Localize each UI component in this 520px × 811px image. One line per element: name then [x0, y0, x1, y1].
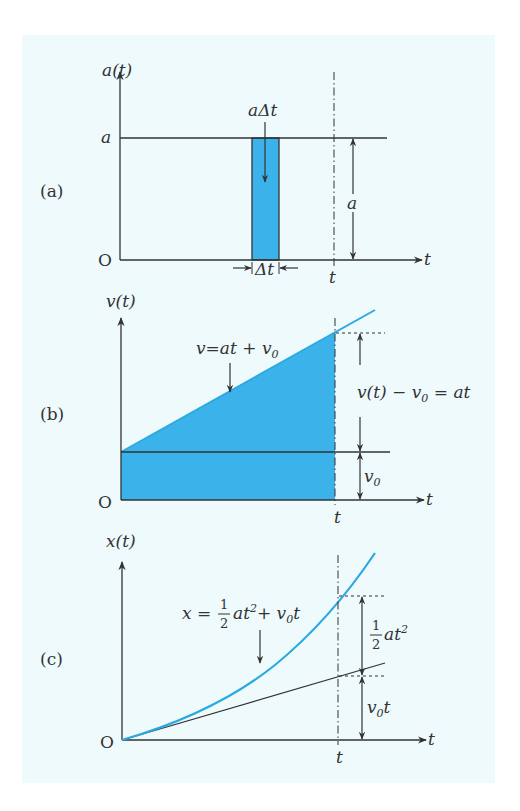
- curve-equation: x = 1 2 at2+ v0t: [182, 597, 300, 631]
- x-axis-label: t: [424, 249, 431, 269]
- increase-label: v(t) − v0 = at: [357, 382, 471, 405]
- level-label: a: [101, 127, 111, 147]
- svg-text:1: 1: [372, 618, 380, 633]
- svg-text:at2: at2: [384, 623, 408, 644]
- initial-velocity-label: v0: [364, 466, 381, 489]
- origin-label: O: [98, 492, 112, 512]
- x-axis-label: t: [428, 729, 435, 749]
- quadratic-term-label: 1 2 at2: [370, 618, 408, 652]
- linear-term-line: [122, 663, 385, 740]
- svg-text:2: 2: [372, 637, 380, 652]
- x-axis-label: t: [426, 489, 433, 509]
- kinematics-figure: (a) a(t) t O a aΔt Δt a t (b): [0, 0, 520, 811]
- panel-a: (a) a(t) t O a aΔt Δt a t: [40, 60, 431, 287]
- y-axis-label: x(t): [106, 531, 136, 551]
- panel-label-b: (b): [40, 404, 64, 424]
- svg-text:1: 1: [220, 597, 228, 612]
- area-under-velocity: [121, 333, 335, 500]
- panel-b: (b) v(t) t O t v=at + v0 v(t) − v0 = at …: [40, 291, 471, 527]
- svg-text:2: 2: [220, 616, 228, 631]
- time-marker-label: t: [336, 747, 343, 767]
- svg-text:x =: x =: [182, 603, 211, 623]
- velocity-equation: v=at + v0: [196, 338, 278, 361]
- y-axis-label: a(t): [102, 60, 132, 80]
- strip-width-label: Δt: [254, 259, 274, 279]
- svg-text:at2+ v0t: at2+ v0t: [233, 602, 300, 626]
- origin-label: O: [98, 250, 112, 270]
- origin-label: O: [100, 732, 114, 752]
- panel-label-c: (c): [40, 649, 63, 669]
- position-curve: [122, 553, 375, 740]
- time-marker-label: t: [334, 507, 341, 527]
- panel-c: (c) x(t) t O t x = 1 2 at2+ v0t: [40, 531, 435, 767]
- strip-label: aΔt: [248, 100, 277, 120]
- linear-term-label: v0t: [367, 697, 391, 720]
- panel-label-a: (a): [40, 181, 63, 201]
- time-marker-label: t: [329, 267, 336, 287]
- height-label: a: [347, 193, 357, 213]
- y-axis-label: v(t): [106, 291, 136, 311]
